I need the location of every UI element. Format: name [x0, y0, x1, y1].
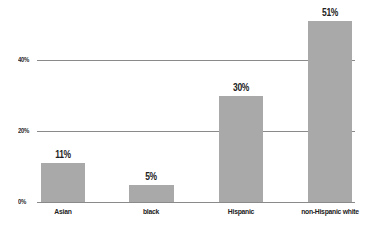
value-label-hispanic: 30% [216, 82, 267, 93]
category-label-non-hispanic-white: non-Hispanic white [292, 207, 369, 216]
bar-black [129, 185, 174, 202]
category-label-black: black [113, 207, 190, 216]
bar-non-hispanic-white [308, 21, 352, 202]
y-tick-0: 0% [18, 198, 32, 205]
y-tick-40: 40% [18, 56, 32, 63]
value-label-asian: 11% [38, 149, 89, 160]
bar-asian [41, 163, 85, 202]
category-label-asian: Asian [25, 207, 102, 216]
bar-chart: 40% 20% 0% 11% Asian 5% black 30% Hispan… [0, 0, 377, 233]
value-label-non-hispanic-white: 51% [305, 7, 356, 18]
value-label-black: 5% [126, 171, 177, 182]
y-tick-20: 20% [18, 127, 32, 134]
baseline-0 [37, 202, 355, 203]
bar-hispanic [219, 96, 263, 202]
category-label-hispanic: Hispanic [203, 207, 280, 216]
